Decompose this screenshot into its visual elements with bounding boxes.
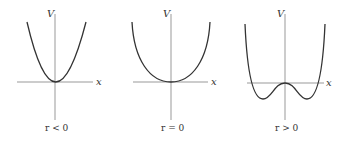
y-axis-label: V xyxy=(47,8,54,19)
panel-caption: r < 0 xyxy=(45,123,68,133)
panel-caption: r > 0 xyxy=(275,123,298,133)
x-axis-label: x xyxy=(211,76,217,87)
panel-1 xyxy=(17,14,93,120)
panel-caption: r = 0 xyxy=(161,123,184,133)
y-axis-label: V xyxy=(163,8,170,19)
panel-3 xyxy=(245,14,325,120)
panel-2 xyxy=(132,14,210,120)
x-axis-label: x xyxy=(326,77,332,88)
x-axis-label: x xyxy=(96,76,102,87)
y-axis-label: V xyxy=(277,8,284,19)
potential-curve xyxy=(27,22,86,82)
